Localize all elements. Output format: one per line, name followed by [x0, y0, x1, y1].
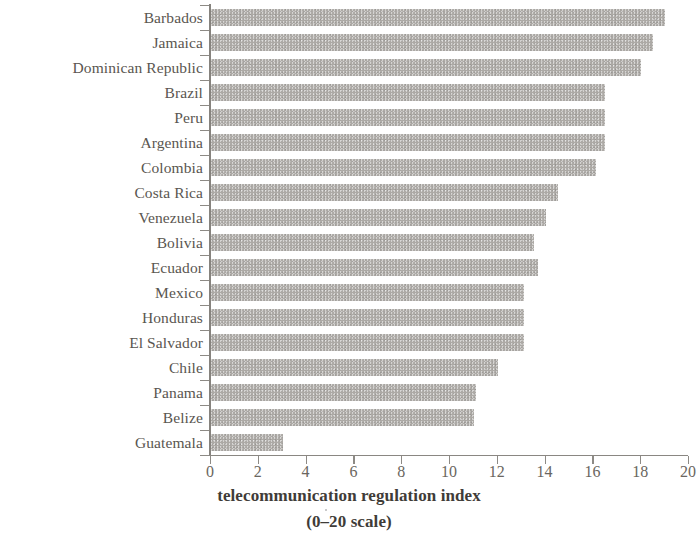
- x-axis-tick-label: 4: [286, 463, 326, 481]
- bar: [211, 9, 665, 26]
- x-axis-tick-label: 0: [190, 463, 230, 481]
- bar: [211, 134, 605, 151]
- y-axis-tick-mark: [200, 105, 209, 106]
- bar: [211, 259, 538, 276]
- y-axis-line: [209, 4, 211, 456]
- y-axis-tick-mark: [200, 330, 209, 331]
- bar: [211, 284, 524, 301]
- y-axis-tick-mark: [200, 180, 209, 181]
- bar-series: [0, 0, 698, 460]
- bar: [211, 359, 498, 376]
- bar: [211, 384, 476, 401]
- y-axis-tick-mark: [200, 5, 209, 6]
- x-axis-tick-label: 6: [333, 463, 373, 481]
- y-axis-tick-mark: [200, 30, 209, 31]
- bar: [211, 209, 546, 226]
- x-axis-tick-label: 12: [477, 463, 517, 481]
- x-axis-tick-label: 8: [381, 463, 421, 481]
- y-axis-tick-mark: [200, 230, 209, 231]
- x-axis-caption-line-1: telecommunication regulation index: [0, 486, 698, 506]
- y-axis-tick-mark: [200, 455, 209, 456]
- x-axis-tick-label: 2: [238, 463, 278, 481]
- y-axis-tick-mark: [200, 205, 209, 206]
- y-axis-tick-mark: [200, 130, 209, 131]
- bar: [211, 109, 605, 126]
- y-axis-tick-mark: [200, 405, 209, 406]
- scan-artifact-speck: [325, 509, 327, 511]
- y-axis-tick-mark: [200, 355, 209, 356]
- y-axis-tick-mark: [200, 430, 209, 431]
- x-axis-tick-label: 10: [429, 463, 469, 481]
- bar: [211, 334, 524, 351]
- y-axis-tick-mark: [200, 55, 209, 56]
- bar: [211, 309, 524, 326]
- bar: [211, 159, 596, 176]
- bar: [211, 409, 474, 426]
- bar: [211, 34, 653, 51]
- plot-area: BarbadosJamaicaDominican RepublicBrazilP…: [0, 0, 698, 460]
- x-axis-tick-label: 18: [620, 463, 660, 481]
- y-axis-tick-mark: [200, 380, 209, 381]
- bar: [211, 84, 605, 101]
- y-axis-tick-mark: [200, 255, 209, 256]
- x-axis-tick-label: 14: [525, 463, 565, 481]
- y-axis-tick-mark: [200, 155, 209, 156]
- bar: [211, 184, 558, 201]
- x-axis-tick-label: 16: [572, 463, 612, 481]
- bar: [211, 59, 641, 76]
- x-axis-tick-label: 20: [668, 463, 698, 481]
- x-axis-caption-line-2: (0–20 scale): [0, 512, 698, 532]
- bar: [211, 234, 534, 251]
- y-axis-tick-mark: [200, 280, 209, 281]
- y-axis-tick-mark: [200, 80, 209, 81]
- y-axis-tick-mark: [200, 305, 209, 306]
- telecommunication-regulation-index-chart: BarbadosJamaicaDominican RepublicBrazilP…: [0, 0, 698, 550]
- bar: [211, 434, 283, 451]
